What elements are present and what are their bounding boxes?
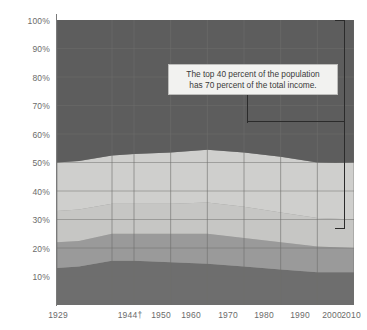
x-tick-1929: 1929: [43, 310, 73, 320]
bracket-tick-top: [335, 20, 345, 21]
y-tick-60: 60%: [4, 130, 50, 140]
plot-area: [57, 20, 354, 305]
x-tick-1990: 1990: [285, 310, 315, 320]
x-tick-2010: 2010: [336, 310, 366, 320]
annotation-line-1: The top 40 percent of the population: [186, 69, 319, 80]
bracket-vertical: [344, 20, 345, 229]
y-tick-80: 80%: [4, 73, 50, 83]
y-tick-30: 30%: [4, 215, 50, 225]
leader-line-horizontal: [247, 121, 345, 122]
y-tick-40: 40%: [4, 187, 50, 197]
x-tick-1950: 1950: [146, 310, 176, 320]
x-tick-1944: 1944†: [113, 310, 147, 320]
y-tick-100: 100%: [4, 16, 50, 26]
x-tick-1970: 1970: [213, 310, 243, 320]
y-tick-90: 90%: [4, 44, 50, 54]
y-tick-70: 70%: [4, 101, 50, 111]
y-tick-20: 20%: [4, 244, 50, 254]
leader-line-vertical: [247, 95, 248, 123]
x-tick-1960: 1960: [176, 310, 206, 320]
bracket-tick-bottom: [335, 228, 345, 229]
area-chart-svg: [57, 20, 354, 305]
y-tick-10: 10%: [4, 272, 50, 282]
x-tick-1980: 1980: [249, 310, 279, 320]
annotation-line-2: has 70 percent of the total income.: [189, 80, 316, 91]
y-tick-50: 50%: [4, 158, 50, 168]
stacked-area-chart: 100% 90% 80% 70% 60% 50% 40% 30% 20% 10%…: [0, 0, 367, 330]
annotation-callout: The top 40 percent of the population has…: [168, 64, 338, 95]
